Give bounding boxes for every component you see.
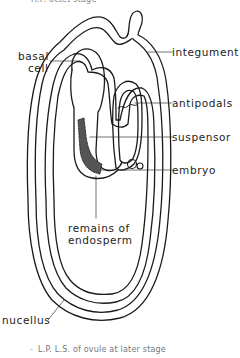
endosperm-granules bbox=[78, 118, 102, 174]
label-cell: cell bbox=[28, 62, 48, 74]
label-endosperm: endosperm bbox=[68, 234, 133, 246]
embryo-cell-2 bbox=[137, 163, 143, 169]
label-nucellus: nucellus bbox=[2, 314, 50, 326]
caption-text: L.P. L.S. of ovule at later stage bbox=[38, 345, 166, 354]
antipodals bbox=[118, 104, 138, 108]
caption-dash: - bbox=[30, 345, 33, 354]
label-remains-of: remains of bbox=[68, 222, 130, 234]
label-suspensor: suspensor bbox=[172, 131, 231, 143]
label-antipodals: antipodals bbox=[172, 97, 233, 109]
label-basal: basal bbox=[18, 50, 49, 62]
bottom-caption: -L.P. L.S. of ovule at later stage bbox=[30, 345, 166, 354]
label-integument: integument bbox=[172, 46, 239, 58]
label-embryo: embryo bbox=[172, 164, 216, 176]
